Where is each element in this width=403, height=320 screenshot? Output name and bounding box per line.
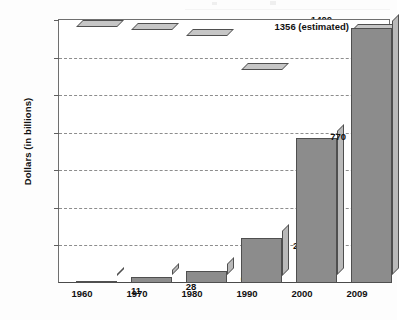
- y-tick-mark-800: [54, 133, 59, 134]
- bar-front-face: [241, 238, 282, 283]
- bar-value-label-1960: 11: [116, 285, 156, 296]
- scan-artifact: [185, 9, 390, 10]
- bar-top-face: [131, 23, 179, 30]
- bar-1980: [186, 20, 241, 283]
- bar-side-face: [337, 124, 344, 275]
- bar-front-face: [186, 271, 227, 282]
- bar-front-face: [76, 281, 117, 283]
- x-tick-label-1990: 1990: [222, 288, 272, 299]
- bar-side-face: [172, 263, 179, 275]
- bar-front-face: [296, 138, 337, 282]
- x-tick-label-1960: 1960: [57, 288, 107, 299]
- scan-artifact: [270, 1, 276, 5]
- x-tick-label-2009: 2009: [332, 288, 382, 299]
- plot-area: 11 28 61 238 770: [58, 19, 390, 283]
- bar-value-label-2000: 770: [306, 131, 346, 142]
- bar-top-face: [241, 63, 289, 70]
- y-tick-mark-1200: [54, 58, 59, 59]
- bar-side-face: [117, 267, 124, 276]
- bar-front-face: [131, 277, 172, 282]
- bar-side-face: [392, 14, 399, 275]
- bar-2009: [351, 20, 403, 283]
- bar-front-face: [351, 28, 392, 282]
- y-tick-mark-400: [54, 208, 59, 209]
- bar-top-face: [186, 29, 234, 36]
- bar-2000: [296, 20, 351, 283]
- y-tick-mark-1400: [54, 20, 59, 21]
- y-tick-mark-200: [54, 245, 59, 246]
- scan-artifact: [212, 2, 217, 5]
- bar-value-label-1970: 28: [171, 281, 211, 292]
- bar-1970: [131, 20, 186, 283]
- y-tick-mark-1000: [54, 95, 59, 96]
- y-tick-mark-600: [54, 170, 59, 171]
- x-tick-label-2000: 2000: [277, 288, 327, 299]
- bar-value-label-2009: 1356 (estimated): [241, 21, 349, 32]
- y-axis-title: Dollars (in billions): [22, 52, 33, 232]
- bar-1960: [76, 20, 131, 283]
- bar-top-face: [76, 20, 124, 27]
